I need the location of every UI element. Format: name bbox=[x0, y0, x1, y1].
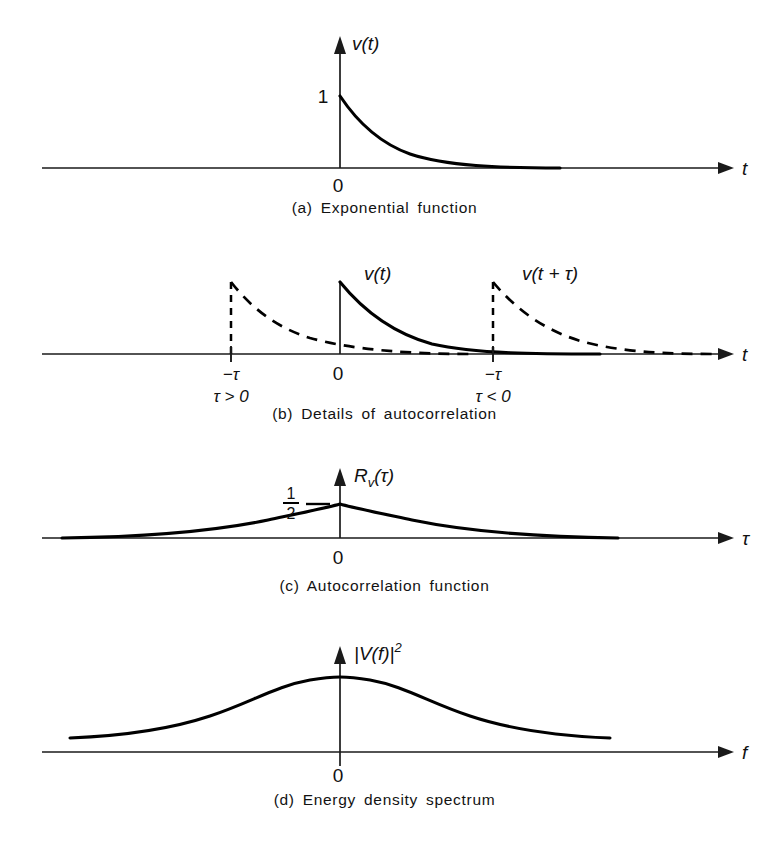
panel-a-y-axis-label: v(t) bbox=[352, 33, 379, 54]
panel-b-origin-label: 0 bbox=[333, 363, 344, 384]
panel-a-caption: (a) Exponential function bbox=[0, 199, 769, 217]
panel-b-condition-right: τ < 0 bbox=[475, 387, 511, 406]
panel-c-y-axis-label-base: R bbox=[354, 465, 368, 486]
figure-root: v(t) t 1 0 (a) Exponential function v(t)… bbox=[0, 0, 769, 852]
panel-d-caption: (d) Energy density spectrum bbox=[0, 791, 769, 809]
panel-b-x-axis-arrowhead bbox=[718, 348, 734, 360]
panel-b-center-solid-curve bbox=[340, 282, 600, 354]
panel-d-y-axis-label: |V(f)|2 bbox=[354, 640, 402, 664]
panel-a-origin-label: 0 bbox=[333, 175, 344, 196]
panel-c-peak-denominator: 2 bbox=[287, 505, 296, 522]
panel-a-x-axis-label: t bbox=[742, 158, 748, 179]
panel-a-exponential-curve bbox=[340, 96, 560, 168]
panel-b-tick-label-left: −τ bbox=[223, 365, 241, 384]
panel-a-y-axis-arrowhead bbox=[334, 36, 346, 54]
panel-d-origin-label: 0 bbox=[333, 765, 344, 786]
panel-d-plot: |V(f)|2 f 0 bbox=[0, 616, 769, 788]
panel-d-y-axis-label-base: |V(f)| bbox=[354, 643, 394, 664]
panel-a-plot: v(t) t 1 0 bbox=[0, 14, 769, 200]
panel-c-y-axis-arrowhead bbox=[334, 468, 346, 486]
panel-b-right-curve-label: v(t + τ) bbox=[522, 263, 578, 284]
panel-c-y-axis-label: Rv(τ) bbox=[354, 465, 394, 490]
panel-a-x-axis-arrowhead bbox=[718, 162, 734, 174]
panel-b-tick-label-right: −τ bbox=[485, 365, 503, 384]
panel-c-x-axis-arrowhead bbox=[718, 532, 734, 544]
panel-c-peak-numerator: 1 bbox=[287, 485, 296, 502]
panel-b-plot: v(t) v(t + τ) t −τ 0 −τ τ > 0 τ < 0 bbox=[0, 262, 769, 410]
panel-c-x-axis-label: τ bbox=[742, 528, 751, 549]
panel-d-y-axis-arrowhead bbox=[334, 646, 346, 664]
panel-b-condition-left: τ > 0 bbox=[213, 387, 249, 406]
panel-b-center-curve-label: v(t) bbox=[364, 263, 391, 284]
panel-d-x-axis-label: f bbox=[742, 742, 749, 763]
panel-d-y-axis-label-exponent: 2 bbox=[393, 640, 402, 655]
panel-d-x-axis-arrowhead bbox=[718, 746, 734, 758]
panel-c-origin-label: 0 bbox=[333, 547, 344, 568]
panel-b-x-axis-label: t bbox=[742, 344, 748, 365]
panel-a-amplitude-label: 1 bbox=[318, 86, 329, 107]
panel-c-plot: 1 2 Rv(τ) τ 0 bbox=[0, 452, 769, 580]
panel-c-caption: (c) Autocorrelation function bbox=[0, 577, 769, 595]
panel-c-y-axis-label-arg: (τ) bbox=[374, 465, 394, 486]
panel-b-right-dashed-curve bbox=[493, 282, 718, 354]
panel-b-caption: (b) Details of autocorrelation bbox=[0, 405, 769, 423]
